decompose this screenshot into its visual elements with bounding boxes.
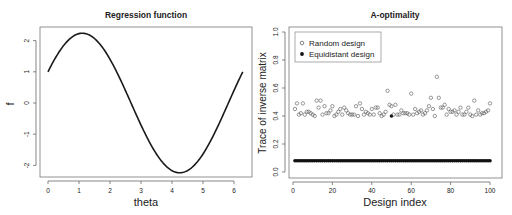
random-point: [370, 107, 373, 110]
random-point: [475, 113, 478, 116]
legend: Random design Equidistant design: [295, 32, 381, 62]
y-tick-label: 1.0: [272, 27, 279, 36]
random-point: [425, 109, 428, 112]
random-point: [476, 109, 479, 112]
random-point: [331, 105, 334, 108]
left-y-label: f: [4, 102, 16, 106]
equidistant-design-points: [293, 114, 492, 162]
random-point: [319, 99, 322, 102]
random-point: [465, 110, 468, 113]
left-title: Regression function: [105, 10, 187, 20]
x-tick-label: 60: [408, 187, 416, 194]
random-point: [317, 106, 320, 109]
y-tick-label: 0.0: [272, 167, 279, 176]
regression-curve: [48, 33, 243, 173]
random-point: [386, 89, 389, 92]
right-x-label: Design index: [363, 196, 427, 208]
random-point: [437, 96, 440, 99]
y-tick-label: 0.2: [272, 139, 279, 148]
random-point: [321, 113, 324, 116]
right-x-axis: 020406080100: [291, 182, 496, 194]
random-point: [329, 109, 332, 112]
right-title: A-optimality: [370, 10, 419, 20]
random-point: [356, 114, 359, 117]
y-tick-label: -1: [23, 131, 30, 137]
x-tick-label: 2: [108, 187, 112, 194]
random-point: [372, 113, 375, 116]
y-tick-label: 0: [23, 101, 30, 105]
random-point: [394, 103, 397, 106]
random-point: [293, 107, 296, 110]
x-tick-label: 4: [170, 187, 174, 194]
random-point: [467, 106, 470, 109]
random-point: [339, 107, 342, 110]
legend-random-label: Random design: [309, 39, 365, 48]
x-tick-label: 20: [329, 187, 337, 194]
random-point: [431, 107, 434, 110]
random-point: [435, 75, 438, 78]
random-point: [473, 99, 476, 102]
random-point: [445, 113, 448, 116]
x-tick-label: 0: [46, 187, 50, 194]
y-tick-label: 0.4: [272, 111, 279, 120]
random-point: [323, 105, 326, 108]
legend-equidistant-label: Equidistant design: [309, 50, 374, 59]
x-tick-label: 40: [368, 187, 376, 194]
left-x-axis: 0123456: [46, 181, 236, 194]
random-point: [413, 107, 416, 110]
random-point: [384, 110, 387, 113]
random-point: [443, 103, 446, 106]
y-tick-label: 0.6: [272, 83, 279, 92]
x-tick-label: 3: [139, 187, 143, 194]
left-y-axis: -2-1012: [23, 38, 36, 168]
random-point: [410, 92, 413, 95]
random-point: [358, 102, 361, 105]
legend-filled-circle-icon: [300, 52, 304, 56]
left-x-label: theta: [134, 196, 159, 208]
figure: Regression function 0123456 -2-1012 thet…: [0, 0, 512, 215]
random-point: [360, 107, 363, 110]
random-point: [433, 114, 436, 117]
x-tick-label: 6: [232, 187, 236, 194]
y-tick-label: 0.8: [272, 55, 279, 64]
random-point: [354, 105, 357, 108]
y-tick-label: 2: [23, 38, 30, 42]
random-point: [488, 102, 491, 105]
equidistant-point: [488, 159, 492, 163]
left-plot-frame: [40, 27, 252, 177]
right-y-axis: 0.00.20.40.60.81.0: [272, 27, 285, 176]
a-optimality-panel: A-optimality 020406080100 0.00.20.40.60.…: [257, 10, 502, 208]
x-tick-label: 100: [485, 187, 496, 194]
y-tick-label: -2: [23, 162, 30, 168]
random-point: [411, 113, 414, 116]
x-tick-label: 80: [447, 187, 455, 194]
random-design-points: [293, 75, 491, 118]
random-point: [315, 99, 318, 102]
random-point: [427, 105, 430, 108]
random-point: [295, 102, 298, 105]
regression-function-panel: Regression function 0123456 -2-1012 thet…: [4, 10, 252, 208]
y-tick-label: 1: [23, 70, 30, 74]
x-tick-label: 1: [77, 187, 81, 194]
right-y-label: Trace of inverse matrix: [257, 52, 268, 153]
random-point: [429, 96, 432, 99]
x-tick-label: 0: [291, 187, 295, 194]
random-point: [459, 106, 462, 109]
random-point: [301, 102, 304, 105]
x-tick-label: 5: [201, 187, 205, 194]
random-point: [457, 110, 460, 113]
random-point: [341, 113, 344, 116]
